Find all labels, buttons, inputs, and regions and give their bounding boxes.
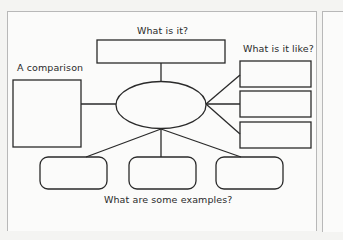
connector-bottom-1 <box>86 129 161 157</box>
like-box-3[interactable] <box>240 122 311 148</box>
center-ellipse[interactable] <box>116 82 206 129</box>
like-box-2[interactable] <box>240 91 311 117</box>
example-box-3[interactable] <box>216 157 283 189</box>
label-what-is-it: What is it? <box>137 25 188 36</box>
connector-right-1 <box>206 75 240 104</box>
example-box-1[interactable] <box>40 157 107 189</box>
label-what-is-it-like: What is it like? <box>243 43 314 54</box>
what-is-it-box[interactable] <box>97 40 225 63</box>
label-comparison: A comparison <box>17 62 83 73</box>
example-box-2[interactable] <box>129 157 196 189</box>
connector-right-3 <box>206 104 240 134</box>
connector-bottom-3 <box>161 129 241 157</box>
comparison-box[interactable] <box>13 80 81 147</box>
label-examples: What are some examples? <box>104 194 232 205</box>
like-box-1[interactable] <box>240 61 311 87</box>
